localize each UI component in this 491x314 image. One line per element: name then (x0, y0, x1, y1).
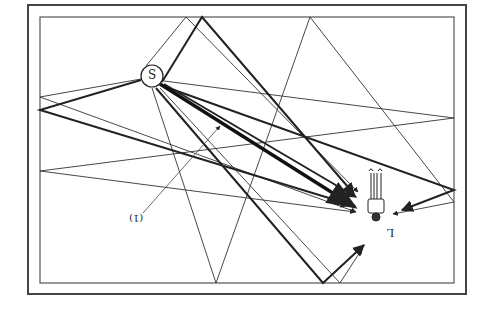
thick-ray (164, 84, 356, 197)
inner-frame (40, 17, 454, 283)
thin-ray (40, 81, 454, 212)
direct-ray (160, 84, 355, 207)
acoustic-reflection-diagram (0, 0, 491, 314)
direct-sound-ray (160, 84, 355, 207)
source-label: S (142, 68, 162, 82)
listener-figure-icon (368, 169, 384, 221)
thin-reflection-rays (40, 17, 454, 283)
thick-ray (162, 17, 354, 194)
outer-frame (28, 5, 466, 294)
annotation-label: (1) (129, 213, 143, 224)
listener-label: L (387, 226, 394, 239)
thick-reflection-rays (40, 17, 454, 283)
thin-ray (160, 88, 362, 283)
